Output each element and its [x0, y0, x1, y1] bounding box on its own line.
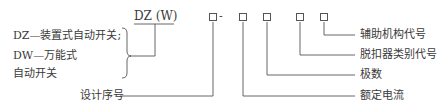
model-code: DZ (W)	[134, 10, 177, 22]
field-box-auxiliary	[320, 13, 328, 21]
field-box-design-serial	[209, 13, 217, 21]
label-release-type: 脱扣器类别代号	[360, 49, 437, 61]
field-box-poles	[263, 13, 271, 21]
type-legend-line3: 自动开关	[13, 68, 57, 80]
field-box-release-type	[296, 13, 304, 21]
field-box-rated-current	[239, 13, 247, 21]
label-design-serial: 设计序号	[80, 90, 124, 102]
label-poles: 极数	[360, 69, 382, 81]
dash: -	[219, 11, 223, 23]
label-rated-current: 额定电流	[360, 90, 404, 102]
type-legend-line1: DZ—装置式自动开关;	[13, 30, 121, 42]
type-legend-line2: DW—万能式	[13, 50, 77, 62]
label-auxiliary: 辅助机构代号	[360, 29, 426, 41]
